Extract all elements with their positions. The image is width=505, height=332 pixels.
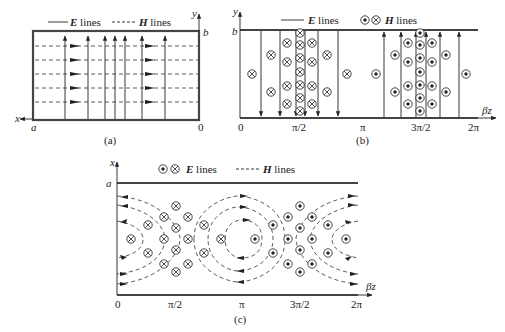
legend-h-label: H [138, 16, 148, 28]
svg-text:H lines: H lines [138, 16, 171, 28]
svg-text:0: 0 [238, 121, 244, 133]
legend-a: E lines H lines [48, 16, 171, 28]
svg-text:E lines: E lines [307, 14, 339, 26]
axis-y-label-b: y [232, 5, 238, 17]
axis-x-label-c: x [109, 156, 115, 168]
axis-z-label-c: βz [365, 280, 376, 292]
caption-c: (c) [234, 313, 247, 326]
ticks-c: 0 π/2 π 3π/2 2π [115, 298, 363, 310]
e-lines-a [65, 36, 165, 119]
e-cross-markers-c [127, 202, 225, 276]
caption-a: (a) [104, 134, 117, 147]
panel-b: E lines H lines [232, 5, 496, 147]
svg-text:E lines: E lines [69, 16, 101, 28]
legend-c: E lines H lines [159, 163, 295, 175]
corner-a-label-c: a [106, 177, 112, 189]
svg-text:π: π [239, 298, 245, 310]
panel-c: E lines H lines [106, 156, 376, 326]
corner-b-label-b: b [232, 25, 238, 37]
e-dot-markers-c [251, 202, 350, 276]
corner-a-label-a: a [31, 121, 37, 133]
cross-icon [372, 16, 380, 24]
axis-z-label-b: βz [481, 104, 492, 116]
origin-label-a: 0 [198, 121, 204, 133]
waveguide-wall-a [33, 31, 199, 120]
svg-text:π/2: π/2 [292, 121, 306, 133]
h-cross-markers-b [248, 29, 351, 115]
svg-text:3π/2: 3π/2 [290, 298, 310, 310]
axis-x-label-a: x [14, 112, 20, 124]
svg-text:π/2: π/2 [168, 298, 182, 310]
panel-a: E lines H lines [14, 7, 209, 147]
svg-text:H lines: H lines [384, 14, 417, 26]
svg-text:3π/2: 3π/2 [411, 121, 431, 133]
svg-text:2π: 2π [468, 121, 480, 133]
legend-e-label: E [69, 16, 77, 28]
h-dot-markers-b [372, 29, 470, 115]
axis-y-label-a: y [191, 7, 197, 19]
waveguide-field-diagram: E lines H lines [0, 0, 505, 332]
caption-b: (b) [356, 134, 369, 147]
ticks-b: 0 π/2 π 3π/2 2π [238, 121, 480, 133]
h-arrowheads-c [120, 194, 358, 286]
legend-b: E lines H lines [281, 14, 417, 26]
svg-text:0: 0 [115, 298, 121, 310]
dot-icon [361, 16, 369, 24]
svg-text:E lines: E lines [185, 163, 217, 175]
corner-b-label-a: b [203, 26, 209, 38]
svg-text:2π: 2π [351, 298, 363, 310]
svg-text:π: π [360, 121, 366, 133]
h-lines-a [35, 46, 198, 102]
svg-text:H lines: H lines [262, 163, 295, 175]
